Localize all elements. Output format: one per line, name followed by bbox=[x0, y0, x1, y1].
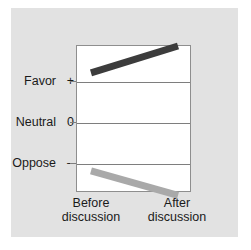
x-axis-label-after-line1: After bbox=[134, 196, 220, 210]
x-axis-label-before-line1: Before bbox=[48, 196, 134, 210]
y-axis-label-neutral-text: Neutral bbox=[16, 114, 56, 130]
chart-figure: Favor + Neutral 0 Oppose – Before discus… bbox=[0, 0, 251, 250]
x-axis-label-after-line2: discussion bbox=[134, 210, 220, 224]
y-axis-label-favor: Favor + bbox=[0, 73, 76, 89]
y-axis-label-oppose: Oppose – bbox=[0, 155, 76, 171]
y-axis-label-favor-text: Favor bbox=[24, 73, 56, 89]
plot-area bbox=[76, 45, 191, 192]
x-axis-label-before-line2: discussion bbox=[48, 210, 134, 224]
series-line-pro-attitude bbox=[91, 46, 178, 73]
x-axis-label-before: Before discussion bbox=[48, 196, 134, 224]
y-axis-label-oppose-text: Oppose bbox=[12, 155, 56, 171]
series-line-anti-attitude bbox=[91, 171, 178, 196]
x-axis-label-after: After discussion bbox=[134, 196, 220, 224]
series-layer bbox=[77, 46, 192, 193]
y-axis-label-neutral: Neutral 0 bbox=[0, 114, 76, 130]
